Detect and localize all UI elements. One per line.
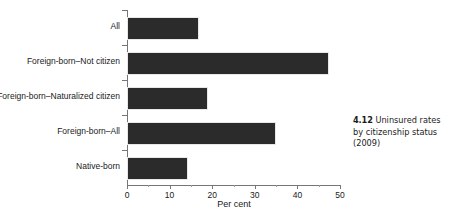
bar — [127, 87, 208, 110]
bar-row: Foreign-born–Not citizen — [127, 45, 340, 80]
x-axis-tick — [340, 185, 341, 189]
category-label: All — [111, 21, 120, 32]
bar-row: Foreign-born–Naturalized citizen — [127, 80, 340, 115]
x-axis-minor-tick — [319, 185, 320, 187]
plot-area: AllForeign-born–Not citizenForeign-born–… — [127, 10, 340, 185]
category-label: Foreign-born–Not citizen — [27, 56, 120, 67]
category-label: Native-born — [76, 161, 120, 172]
figure-caption: 4.12 Uninsured rates by citizenship stat… — [353, 115, 445, 150]
x-axis-tick — [170, 185, 171, 189]
bar — [127, 157, 188, 180]
x-axis-tick — [127, 185, 128, 189]
figure-number: 4.12 — [353, 115, 373, 125]
bar-row: Foreign-born–All — [127, 115, 340, 150]
bar — [127, 122, 276, 145]
x-axis-tick — [212, 185, 213, 189]
x-axis-minor-tick — [148, 185, 149, 187]
bar-row: All — [127, 10, 340, 45]
bar — [127, 17, 199, 40]
category-label: Foreign-born–All — [57, 126, 120, 137]
bar — [127, 52, 329, 75]
x-axis-minor-tick — [191, 185, 192, 187]
x-axis-tick — [255, 185, 256, 189]
x-axis-minor-tick — [276, 185, 277, 187]
x-axis-tick — [297, 185, 298, 189]
x-axis-title: Per cent — [127, 199, 341, 209]
figure: AllForeign-born–Not citizenForeign-born–… — [0, 0, 450, 224]
x-axis-minor-tick — [234, 185, 235, 187]
bar-row: Native-born — [127, 150, 340, 185]
category-label: Foreign-born–Naturalized citizen — [0, 91, 120, 102]
